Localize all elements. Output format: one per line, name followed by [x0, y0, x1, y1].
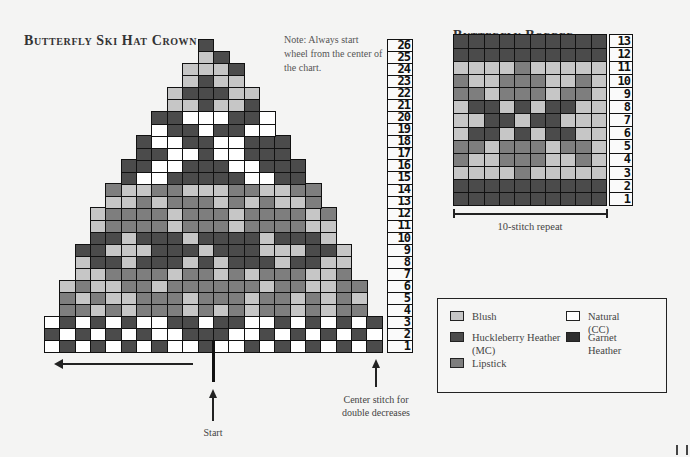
crown-cell-lipstick — [305, 304, 322, 318]
crown-cell-huckleberry — [182, 328, 199, 342]
crown-cell-huckleberry — [274, 171, 291, 185]
crown-cell-lipstick — [136, 268, 153, 282]
border-cell-huckleberry — [530, 47, 547, 62]
crown-cell-huckleberry — [336, 316, 353, 330]
border-row-number: 10 — [609, 74, 633, 88]
border-cell-blush — [575, 126, 592, 141]
crown-cell-blush — [259, 232, 276, 246]
border-cell-lipstick — [530, 74, 547, 89]
crown-cell-lipstick — [136, 292, 153, 306]
border-cell-huckleberry — [499, 179, 516, 194]
crown-cell-huckleberry — [151, 111, 168, 125]
border-cell-blush — [530, 100, 547, 115]
crown-cell-lipstick — [105, 207, 122, 221]
crown-cell-huckleberry — [198, 232, 215, 246]
border-cell-huckleberry — [545, 179, 562, 194]
border-cell-huckleberry — [453, 34, 470, 49]
repeat-label: 10-stitch repeat — [474, 220, 586, 233]
border-cell-huckleberry — [514, 192, 531, 207]
crown-note: Note: Always start wheel from the center… — [284, 33, 384, 75]
crown-cell-lipstick — [167, 183, 184, 197]
border-cell-lipstick — [530, 139, 547, 154]
crown-cell-natural — [136, 171, 153, 185]
crown-cell-blush — [213, 304, 230, 318]
crown-cell-lipstick — [228, 280, 245, 294]
crown-cell-blush — [105, 244, 122, 258]
crown-cell-huckleberry — [259, 135, 276, 149]
crown-cell-huckleberry — [336, 340, 353, 354]
crown-cell-blush — [59, 280, 76, 294]
border-cell-huckleberry — [514, 34, 531, 49]
crown-cell-huckleberry — [136, 256, 153, 270]
crown-cell-lipstick — [182, 268, 199, 282]
crown-cell-huckleberry — [244, 244, 261, 258]
crown-row-number: 9 — [387, 244, 413, 257]
start-arrow-line — [212, 396, 214, 421]
crown-cell-lipstick — [198, 280, 215, 294]
crown-cell-blush — [151, 280, 168, 294]
crown-row-number: 7 — [387, 268, 413, 281]
border-cell-huckleberry — [499, 192, 516, 207]
border-cell-blush — [591, 126, 608, 141]
crown-cell-lipstick — [274, 292, 291, 306]
crown-cell-natural — [320, 316, 337, 330]
crown-cell-blush — [213, 63, 230, 77]
crown-cell-blush — [121, 183, 138, 197]
crown-row-number: 14 — [387, 183, 413, 196]
crown-cell-huckleberry — [320, 328, 337, 342]
crown-cell-natural — [228, 340, 245, 354]
border-cell-huckleberry — [560, 100, 577, 115]
border-cell-blush — [453, 166, 470, 181]
crown-cell-lipstick — [198, 195, 215, 209]
border-cell-lipstick — [514, 139, 531, 154]
crown-cell-lipstick — [274, 268, 291, 282]
crown-cell-natural — [351, 316, 368, 330]
crown-cell-blush — [90, 304, 107, 318]
crown-cell-lipstick — [336, 280, 353, 294]
crown-cell-huckleberry — [213, 159, 230, 173]
crown-cell-huckleberry — [351, 328, 368, 342]
border-cell-huckleberry — [545, 47, 562, 62]
crown-cell-natural — [244, 123, 261, 137]
crown-cell-natural — [259, 171, 276, 185]
crown-cell-lipstick — [336, 268, 353, 282]
border-cell-blush — [468, 74, 485, 89]
left-arrow-icon — [54, 359, 63, 369]
corner-mark-right — [686, 445, 688, 455]
border-cell-blush — [591, 152, 608, 167]
crown-cell-huckleberry — [259, 328, 276, 342]
huckleberry-swatch — [450, 332, 464, 342]
crown-cell-blush — [182, 292, 199, 306]
crown-row-number: 2 — [387, 328, 413, 341]
repeat-bracket — [454, 213, 607, 215]
crown-cell-natural — [213, 340, 230, 354]
crown-cell-huckleberry — [305, 232, 322, 246]
border-cell-huckleberry — [468, 34, 485, 49]
crown-cell-lipstick — [228, 292, 245, 306]
border-cell-blush — [484, 139, 501, 154]
crown-cell-lipstick — [136, 280, 153, 294]
crown-cell-blush — [336, 244, 353, 258]
crown-cell-blush — [198, 51, 215, 65]
crown-cell-lipstick — [136, 195, 153, 209]
crown-cell-huckleberry — [305, 244, 322, 258]
border-cell-blush — [530, 126, 547, 141]
crown-cell-huckleberry — [274, 232, 291, 246]
crown-row-number: 11 — [387, 219, 413, 232]
crown-cell-lipstick — [259, 195, 276, 209]
crown-cell-lipstick — [167, 304, 184, 318]
crown-cell-blush — [320, 268, 337, 282]
crown-cell-blush — [90, 280, 107, 294]
crown-cell-huckleberry — [59, 340, 76, 354]
crown-cell-huckleberry — [167, 232, 184, 246]
crown-cell-huckleberry — [259, 147, 276, 161]
border-cell-blush — [530, 60, 547, 75]
crown-cell-blush — [305, 280, 322, 294]
crown-cell-huckleberry — [213, 87, 230, 101]
crown-cell-huckleberry — [198, 39, 215, 53]
crown-cell-natural — [259, 340, 276, 354]
crown-cell-natural — [90, 328, 107, 342]
crown-cell-natural — [366, 328, 383, 342]
border-cell-blush — [591, 166, 608, 181]
crown-cell-huckleberry — [59, 316, 76, 330]
